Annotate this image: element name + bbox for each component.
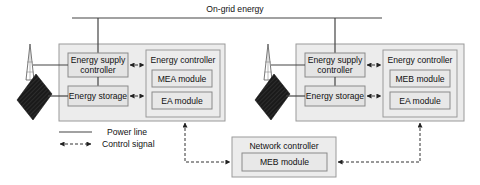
legend-power-line-label: Power line bbox=[107, 127, 147, 137]
energy-storage-label: Energy storage bbox=[306, 91, 365, 101]
energy-storage-label: Energy storage bbox=[69, 91, 128, 101]
energy-supply-controller-label-2: controller bbox=[317, 65, 352, 75]
microgrid-left: Energy supply controller Energy storage … bbox=[17, 18, 225, 121]
legend: Power line Control signal bbox=[59, 127, 155, 149]
wind-turbine-icon bbox=[264, 44, 272, 80]
legend-control-signal-label: Control signal bbox=[102, 139, 155, 149]
wind-turbine-icon bbox=[26, 44, 34, 80]
network-controller-label: Network controller bbox=[249, 141, 318, 151]
energy-controller-label: Energy controller bbox=[151, 55, 216, 65]
ea-module-label: EA module bbox=[399, 96, 441, 106]
control-link-right bbox=[338, 123, 420, 162]
ea-module-label: EA module bbox=[161, 96, 203, 106]
energy-supply-controller-label-2: controller bbox=[80, 65, 115, 75]
solar-panel-icon bbox=[17, 74, 52, 120]
solar-panel-icon bbox=[255, 74, 290, 120]
energy-supply-controller-label-1: Energy supply bbox=[308, 55, 363, 65]
energy-supply-controller-label-1: Energy supply bbox=[71, 55, 126, 65]
diagram-canvas: On-grid energy Energy supply controller … bbox=[0, 0, 480, 185]
microgrid-right: Energy supply controller Energy storage … bbox=[255, 18, 464, 121]
meb-module-label: MEB module bbox=[260, 157, 309, 167]
energy-controller-label: Energy controller bbox=[388, 55, 453, 65]
network-controller: Network controller MEB module bbox=[232, 137, 336, 177]
meb-module-label: MEB module bbox=[395, 74, 444, 84]
on-grid-label: On-grid energy bbox=[206, 4, 264, 14]
control-link-left bbox=[185, 123, 230, 162]
mea-module-label: MEA module bbox=[158, 74, 207, 84]
